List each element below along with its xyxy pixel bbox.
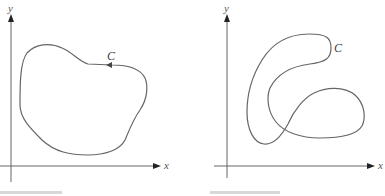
- curve-c: [20, 45, 147, 155]
- caption-cutoff: [210, 191, 280, 194]
- x-axis-arrow-icon: [153, 163, 161, 169]
- curve-c: [247, 34, 364, 144]
- caption-cutoff: [0, 191, 62, 194]
- y-axis-label: y: [8, 3, 13, 14]
- right-plot: [192, 0, 385, 196]
- figure-self-intersecting-curve: y x C: [192, 0, 385, 196]
- x-axis-arrow-icon: [367, 163, 375, 169]
- figure-simple-closed-curve: y x C: [0, 0, 192, 196]
- y-axis-arrow-icon: [224, 14, 230, 22]
- y-axis-arrow-icon: [8, 14, 14, 22]
- curve-label: C: [107, 50, 115, 62]
- x-axis-label: x: [378, 160, 383, 171]
- curve-label: C: [334, 42, 342, 54]
- x-axis-label: x: [164, 160, 169, 171]
- y-axis-label: y: [224, 3, 229, 14]
